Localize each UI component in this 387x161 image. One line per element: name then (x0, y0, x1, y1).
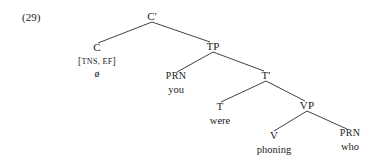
node-c: C [TNS, EF] ø (78, 42, 116, 80)
branch-tbar-to-vp (266, 81, 305, 101)
branch-tp-to-tbar (213, 52, 264, 71)
node-tbar-label: T′ (261, 70, 270, 82)
node-c-null-morpheme: ø (78, 69, 116, 80)
branch-cbar-to-tp (152, 22, 210, 42)
node-prn-subject: PRN you (166, 71, 187, 95)
node-c-label: C (78, 42, 116, 54)
feature-list: TNS, EF (81, 57, 112, 66)
node-v-label: V (257, 130, 291, 142)
branch-cbar-to-c (98, 22, 152, 43)
node-c-features: [TNS, EF] (78, 56, 116, 67)
branch-tp-to-prn-subject (177, 52, 213, 72)
feature-bracket-close: ] (113, 56, 116, 66)
node-cbar-label: C′ (147, 11, 157, 23)
branch-tbar-to-t (221, 81, 266, 102)
node-vp: VP (300, 100, 314, 112)
node-prn-object-label: PRN (340, 128, 361, 139)
node-t-word: were (210, 115, 230, 126)
branch-vp-to-v (274, 111, 307, 131)
node-prn-object: PRN who (340, 128, 361, 152)
node-prn-subject-word: you (166, 84, 187, 95)
node-tbar: T′ (261, 70, 270, 82)
node-prn-subject-label: PRN (166, 71, 187, 82)
node-vp-label: VP (300, 100, 314, 112)
node-tp-label: TP (206, 41, 219, 53)
node-t: T were (210, 101, 230, 126)
node-v-word: phoning (257, 144, 291, 155)
node-prn-object-word: who (340, 141, 361, 152)
syntax-tree-figure: (29) C′ C [TNS, EF] ø TP PRN you (0, 0, 387, 161)
node-t-label: T (210, 101, 230, 113)
tree-branch-lines (0, 0, 387, 161)
node-v: V phoning (257, 130, 291, 155)
node-tp: TP (206, 41, 219, 53)
node-cbar: C′ (147, 11, 157, 23)
